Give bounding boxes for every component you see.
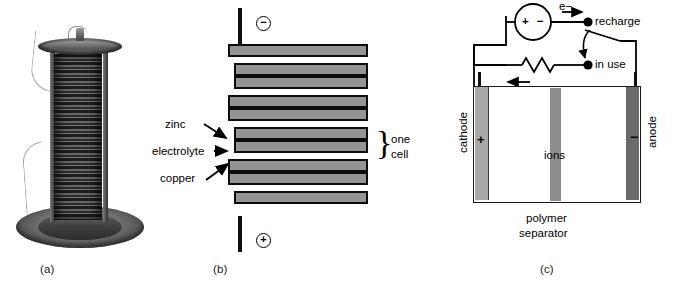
label-recharge: recharge: [595, 15, 640, 27]
charger-source-symbol: [515, 4, 551, 40]
voltaic-pile-photo: [8, 18, 158, 250]
one-cell-brace: }: [376, 126, 392, 160]
panel-a-voltaic-pile: (a): [0, 0, 170, 291]
label-one-cell-line2: cell: [391, 148, 408, 160]
anode-tab: [634, 72, 637, 86]
label-source-minus: −: [537, 15, 544, 27]
pile-top-ring: [44, 41, 116, 50]
resistor-symbol: [522, 58, 554, 72]
cathode-polarity-sign: +: [477, 132, 485, 147]
switch-toggle-arc: [583, 30, 590, 58]
panel-b-pile-schematic: − + zinc electrolyte copper: [170, 0, 430, 291]
label-ions: ions: [544, 149, 565, 161]
label-cathode: cathode: [457, 112, 469, 153]
contact-in-use[interactable]: [583, 60, 592, 69]
caption-a: (a): [40, 263, 54, 275]
pile-disc-stack: [54, 54, 102, 220]
cathode-tab: [478, 72, 481, 86]
battery-figure: (a) − + zinc electrolyte copper: [0, 0, 677, 291]
label-anode: anode: [646, 116, 658, 148]
arrow-zinc: [204, 124, 226, 138]
cell-body: [473, 86, 641, 203]
panel-c-rechargeable-cell: e− recharge in use e− load + − cathode a…: [430, 0, 677, 291]
contact-recharge[interactable]: [583, 17, 592, 26]
label-electron-recharge: e−: [559, 0, 572, 12]
label-polymer-line2: separator: [519, 227, 568, 239]
switch-blade[interactable]: [585, 30, 620, 41]
arrow-copper: [206, 164, 228, 180]
pile-top-screw: [76, 28, 84, 41]
caption-b: (b): [213, 263, 227, 275]
label-one-cell-line1: one: [391, 133, 410, 145]
wire-load-branch: [474, 45, 506, 65]
label-source-plus: +: [522, 15, 529, 27]
caption-c: (c): [540, 263, 554, 275]
anode-polarity-sign: −: [630, 129, 638, 145]
label-polymer-line1: polymer: [526, 212, 567, 224]
label-in-use: in use: [595, 58, 626, 70]
pile-rod-right: [103, 44, 108, 222]
pile-wire-lower: [21, 141, 47, 215]
polymer-separator-bar: [550, 88, 561, 201]
